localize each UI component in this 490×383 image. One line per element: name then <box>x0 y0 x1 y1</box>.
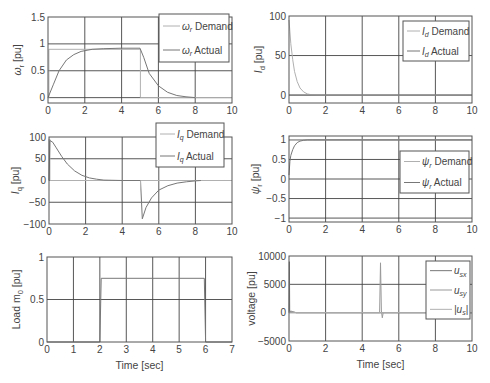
x-tick-label: 10 <box>226 226 238 237</box>
y-tick-label: 0 <box>280 90 286 101</box>
x-tick-label: 6 <box>203 344 209 355</box>
x-tick-label: 3 <box>124 344 130 355</box>
y-tick-label: 5000 <box>264 279 287 290</box>
x-tick-label: 0 <box>286 343 292 354</box>
x-tick-label: 2 <box>82 105 88 116</box>
y-tick-label: −50 <box>29 197 46 208</box>
y-tick-label: 0 <box>40 175 46 186</box>
x-tick-label: 8 <box>433 224 439 235</box>
x-tick-label: 2 <box>323 224 329 235</box>
y-tick-label: 0.5 <box>30 294 44 305</box>
x-tick-label: 6 <box>396 343 402 354</box>
x-tick-label: 6 <box>396 105 402 116</box>
x-tick-label: 8 <box>433 343 439 354</box>
y-tick-label: 1 <box>280 134 286 145</box>
y-axis-label: voltage [pu] <box>245 271 257 325</box>
x-tick-label: 10 <box>466 224 478 235</box>
y-tick-label: 10000 <box>258 251 286 262</box>
x-tick-label: 5 <box>176 344 182 355</box>
x-tick-label: 2 <box>323 105 329 116</box>
x-tick-label: 10 <box>466 343 478 354</box>
x-tick-label: 6 <box>396 224 402 235</box>
x-tick-label: 4 <box>119 226 125 237</box>
x-tick-label: 6 <box>156 226 162 237</box>
x-tick-label: 0 <box>46 226 52 237</box>
legend: Id DemandId Actual <box>403 21 469 61</box>
x-tick-label: 1 <box>71 344 77 355</box>
legend: ψr Demandψr Actual <box>400 151 472 193</box>
x-tick-label: 8 <box>433 105 439 116</box>
x-axis-label: Time [sec] <box>115 359 163 371</box>
y-tick-label: 1 <box>38 252 44 263</box>
legend-label: ψr Actual <box>422 177 462 190</box>
x-tick-label: 2 <box>83 226 89 237</box>
x-tick-label: 4 <box>359 343 365 354</box>
legend-label: Id Demand <box>422 26 469 39</box>
y-tick-label: 0 <box>280 174 286 185</box>
legend: usxusy|us| <box>426 261 470 319</box>
x-tick-label: 4 <box>119 105 125 116</box>
x-tick-label: 0 <box>286 105 292 116</box>
y-tick-label: 1 <box>39 38 45 49</box>
x-tick-label: 0 <box>44 344 50 355</box>
y-tick-label: 1.5 <box>31 12 45 23</box>
y-tick-label: 0.5 <box>272 154 286 165</box>
x-tick-label: 2 <box>97 344 103 355</box>
legend-label: |us| <box>454 304 468 317</box>
x-tick-label: 4 <box>359 224 365 235</box>
y-tick-label: 0 <box>39 92 45 103</box>
y-tick-label: 50 <box>35 153 47 164</box>
x-tick-label: 10 <box>226 105 238 116</box>
figure-canvas: 024681000.511.5ωr [pu]ωr Demandωr Actual… <box>0 0 490 383</box>
x-tick-label: 6 <box>156 105 162 116</box>
x-axis-label: Time [sec] <box>356 358 404 370</box>
legend: Iq DemandIq Actual <box>156 123 224 167</box>
y-tick-label: −0.5 <box>266 193 286 204</box>
x-tick-label: 4 <box>359 105 365 116</box>
y-tick-label: −100 <box>23 219 46 230</box>
x-tick-label: 10 <box>466 105 478 116</box>
y-tick-label: −1 <box>275 213 287 224</box>
y-tick-label: 0 <box>38 337 44 348</box>
x-tick-label: 8 <box>192 105 198 116</box>
legend-label: ωr Demand <box>182 21 233 34</box>
x-tick-label: 8 <box>193 226 199 237</box>
x-tick-label: 0 <box>286 224 292 235</box>
y-tick-label: 50 <box>275 50 287 61</box>
legend: ωr Demandωr Actual <box>159 14 233 62</box>
x-tick-label: 4 <box>150 344 156 355</box>
legend-label: ωr Actual <box>182 45 222 58</box>
y-tick-label: −5000 <box>258 336 287 347</box>
subplot-iq: 0246810−100−50050100Iq [pu]Iq DemandIq A… <box>9 123 238 237</box>
y-tick-label: 100 <box>29 132 46 143</box>
x-tick-label: 0 <box>45 105 51 116</box>
y-tick-label: 0 <box>280 307 286 318</box>
x-tick-label: 7 <box>229 344 235 355</box>
x-tick-label: 2 <box>323 343 329 354</box>
y-tick-label: 0.5 <box>31 65 45 76</box>
y-tick-label: 100 <box>269 11 286 22</box>
